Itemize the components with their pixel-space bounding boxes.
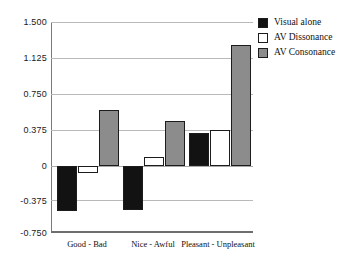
y-tick-label: 0.750 xyxy=(3,90,47,99)
y-tick-label: 0.375 xyxy=(3,126,47,135)
plot-area xyxy=(51,22,253,232)
y-tick-label: 1.500 xyxy=(3,18,47,27)
bar-chart: 1.500 1.125 0.750 0.375 0 -0.375 -0.750 xyxy=(0,0,356,264)
bar-av-consonance[interactable] xyxy=(231,45,251,166)
bar-av-dissonance[interactable] xyxy=(210,130,230,166)
gray-square-icon xyxy=(258,48,268,58)
white-square-icon xyxy=(258,33,268,43)
bar-av-consonance[interactable] xyxy=(99,110,119,166)
bar-av-dissonance[interactable] xyxy=(144,157,164,166)
bar-av-consonance[interactable] xyxy=(165,121,185,166)
bar-group-pleasant-unpleasant xyxy=(189,22,249,232)
legend-item-visual-alone[interactable]: Visual alone xyxy=(258,16,354,29)
y-tick-label: -0.375 xyxy=(3,197,47,206)
x-tick-label-good-bad: Good - Bad xyxy=(57,239,117,249)
legend-item-av-consonance[interactable]: AV Consonance xyxy=(258,46,354,59)
legend-label: Visual alone xyxy=(274,17,321,28)
legend-item-av-dissonance[interactable]: AV Dissonance xyxy=(258,31,354,44)
bar-visual-alone[interactable] xyxy=(123,166,143,210)
bar-av-dissonance[interactable] xyxy=(78,166,98,173)
x-tick-label-nice-awful: Nice - Awful xyxy=(123,239,183,249)
y-tick-label: 0 xyxy=(3,162,47,171)
black-square-icon xyxy=(258,18,268,28)
bar-visual-alone[interactable] xyxy=(57,166,77,211)
bar-group-good-bad xyxy=(57,22,117,232)
legend-label: AV Consonance xyxy=(274,47,335,58)
y-axis-tick-labels: 1.500 1.125 0.750 0.375 0 -0.375 -0.750 xyxy=(0,0,47,264)
y-tick-label: 1.125 xyxy=(3,54,47,63)
chart-legend: Visual alone AV Dissonance AV Consonance xyxy=(258,16,354,61)
bar-group-nice-awful xyxy=(123,22,183,232)
legend-label: AV Dissonance xyxy=(274,32,333,43)
x-tick-label-pleasant-unpleasant: Pleasant - Unpleasant xyxy=(179,239,257,249)
y-tick-label: -0.750 xyxy=(3,229,47,238)
bar-visual-alone[interactable] xyxy=(189,133,209,166)
